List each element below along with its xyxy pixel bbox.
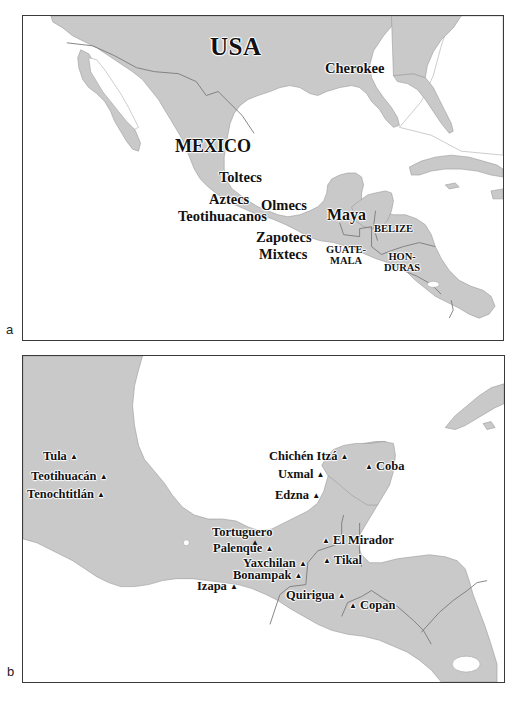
culture-label-toltecs: Toltecs xyxy=(219,170,262,185)
site-marker-icon: ▲ xyxy=(100,473,108,481)
site-quirigua: Quirigua ▲ xyxy=(286,589,346,602)
culture-label-mixtecs: Mixtecs xyxy=(259,247,307,262)
site-palenque: Palenque ▲ xyxy=(213,542,273,555)
landmass-mexico-central-america xyxy=(23,356,497,682)
site-label-tenochtitlan: Tenochtitlán xyxy=(27,487,94,501)
site-marker-icon: ▲ xyxy=(365,463,373,471)
country-label-honduras: HON- DURAS xyxy=(384,251,420,273)
country-label-honduras-line2: DURAS xyxy=(384,262,420,273)
site-label-tula: Tula xyxy=(43,449,67,463)
site-el-mirador: ▲ El Mirador xyxy=(322,534,394,547)
site-bonampak: Bonampak ▲ xyxy=(233,569,302,582)
site-label-copan: Copan xyxy=(360,598,395,612)
site-marker-icon: ▲ xyxy=(265,545,273,553)
site-marker-icon: ▲ xyxy=(338,592,346,600)
map-b-basemap xyxy=(23,356,504,682)
lake-small xyxy=(183,540,189,546)
site-izapa: Izapa ▲ xyxy=(197,580,238,593)
site-coba: ▲ Coba xyxy=(365,460,405,473)
landmass-isle-of-youth xyxy=(483,422,495,430)
landmass-jamaica xyxy=(445,183,459,189)
landmass-cuba xyxy=(445,384,504,430)
site-tikal: ▲ Tikal xyxy=(323,554,362,567)
site-marker-icon: ▲ xyxy=(317,471,325,479)
country-label-honduras-line1: HON- xyxy=(384,251,420,262)
site-marker-icon: ▲ xyxy=(341,453,349,461)
country-label-belize: BELIZE xyxy=(374,223,413,234)
map-panel-a: USA Cherokee MEXICO Toltecs Aztecs Olmec… xyxy=(22,15,504,341)
site-label-bonampak: Bonampak xyxy=(233,568,291,582)
site-marker-icon: ▲ xyxy=(294,572,302,580)
site-tula: Tula ▲ xyxy=(43,450,78,463)
site-chichen-itza: Chichén Itzá ▲ xyxy=(269,450,348,463)
map-panel-b: Tula ▲ Teotihuacán ▲ Tenochtitlán ▲ Chic… xyxy=(22,355,505,683)
site-uxmal: Uxmal ▲ xyxy=(278,468,324,481)
site-label-izapa: Izapa xyxy=(197,579,227,593)
landmass-cuba xyxy=(409,155,503,177)
lake-nicaragua xyxy=(452,656,480,672)
site-label-uxmal: Uxmal xyxy=(278,467,313,481)
site-label-tikal: Tikal xyxy=(334,553,362,567)
site-label-coba: Coba xyxy=(376,459,404,473)
site-edzna: Edzna ▲ xyxy=(275,489,320,502)
landmass-hispaniola xyxy=(491,189,503,199)
site-marker-icon: ▲ xyxy=(349,602,357,610)
site-tortuguero: Tortuguero xyxy=(212,526,272,539)
country-label-mexico: MEXICO xyxy=(175,137,251,155)
site-marker-icon: ▲ xyxy=(322,537,330,545)
culture-label-zapotecs: Zapotecs xyxy=(256,230,312,245)
site-marker-icon: ▲ xyxy=(299,560,307,568)
culture-label-cherokee: Cherokee xyxy=(325,61,384,76)
site-teotihuacan: Teotihuacán ▲ xyxy=(31,470,108,483)
site-marker-icon: ▲ xyxy=(312,492,320,500)
culture-label-teotihuacanos: Teotihuacanos xyxy=(178,209,267,224)
site-marker-icon: ▲ xyxy=(230,583,238,591)
country-label-guatemala-line2: MALA xyxy=(326,255,366,266)
country-label-usa: USA xyxy=(210,34,262,59)
culture-label-maya: Maya xyxy=(327,207,366,223)
site-label-teotihuacan: Teotihuacán xyxy=(31,469,97,483)
culture-label-aztecs: Aztecs xyxy=(209,192,249,207)
site-marker-icon: ▲ xyxy=(323,557,331,565)
site-label-el-mirador: El Mirador xyxy=(333,533,394,547)
site-label-chichen-itza: Chichén Itzá xyxy=(269,449,337,463)
site-label-palenque: Palenque xyxy=(213,541,262,555)
country-label-guatemala: GUATE- MALA xyxy=(326,244,366,266)
map-a-basemap xyxy=(23,16,503,340)
site-marker-icon: ▲ xyxy=(97,491,105,499)
site-label-tortuguero: Tortuguero xyxy=(212,525,272,539)
site-tenochtitlan: Tenochtitlán ▲ xyxy=(27,488,105,501)
panel-letter-a: a xyxy=(6,322,13,337)
site-marker-icon: ▲ xyxy=(70,453,78,461)
country-label-guatemala-line1: GUATE- xyxy=(326,244,366,255)
culture-label-olmecs: Olmecs xyxy=(261,198,307,213)
site-copan: ▲ Copan xyxy=(349,599,395,612)
site-label-edzna: Edzna xyxy=(275,488,309,502)
site-label-quirigua: Quirigua xyxy=(286,588,335,602)
panel-letter-b: b xyxy=(7,664,14,679)
lake-nicaragua xyxy=(427,281,439,287)
